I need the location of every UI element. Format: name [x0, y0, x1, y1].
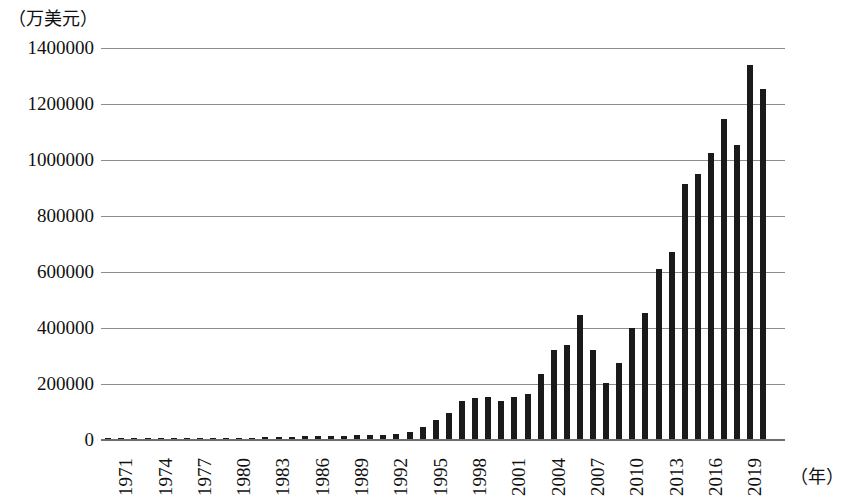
y-axis-unit-label: （万美元） [8, 4, 98, 30]
y-tick-label: 0 [0, 430, 94, 449]
x-tick-label: 2007 [588, 458, 607, 496]
x-tick-label: 1980 [234, 458, 253, 496]
x-axis-baseline [101, 439, 785, 441]
bar [656, 269, 662, 440]
x-tick-label: 1977 [195, 458, 214, 496]
y-tick-label: 800000 [0, 206, 94, 225]
y-tick-label: 400000 [0, 318, 94, 337]
bar [459, 401, 465, 440]
bar [538, 374, 544, 440]
y-tick-label: 200000 [0, 374, 94, 393]
bar [551, 350, 557, 440]
y-tick-label: 600000 [0, 262, 94, 281]
bar [472, 398, 478, 440]
y-tick-label: 1000000 [0, 150, 94, 169]
bar-chart-figure: （万美元） 0200000400000600000800000100000012… [0, 0, 846, 501]
bar [708, 153, 714, 440]
bar [721, 119, 727, 440]
bar [485, 397, 491, 440]
bar [564, 345, 570, 440]
bar [446, 413, 452, 440]
x-axis-unit-label: （年） [790, 462, 844, 488]
bar [511, 397, 517, 440]
y-tick-label: 1400000 [0, 38, 94, 57]
x-tick-label: 1986 [313, 458, 332, 496]
bar [603, 383, 609, 440]
x-tick-label: 1989 [352, 458, 371, 496]
x-tick-label: 2013 [667, 458, 686, 496]
bar [590, 350, 596, 440]
bar [525, 394, 531, 440]
bar [682, 184, 688, 440]
plot-area [101, 48, 785, 440]
x-tick-label: 1971 [116, 458, 135, 496]
x-tick-label: 2016 [706, 458, 725, 496]
bar [747, 65, 753, 440]
y-tick-label: 1200000 [0, 94, 94, 113]
x-tick-label: 2001 [509, 458, 528, 496]
bar [433, 420, 439, 440]
x-axis-tick-labels: 1971197419771980198319861989199219951998… [101, 444, 785, 501]
bars-layer [101, 48, 785, 440]
x-tick-label: 2004 [549, 458, 568, 496]
x-tick-label: 1983 [273, 458, 292, 496]
bar [734, 145, 740, 440]
x-tick-label: 1974 [156, 458, 175, 496]
bar [695, 174, 701, 440]
bar [616, 363, 622, 440]
bar [577, 315, 583, 440]
x-tick-label: 1995 [431, 458, 450, 496]
bar [669, 252, 675, 440]
bar [498, 401, 504, 440]
bar [760, 89, 766, 440]
x-tick-label: 1992 [391, 458, 410, 496]
bar [642, 313, 648, 440]
x-tick-label: 2010 [627, 458, 646, 496]
x-tick-label: 2019 [745, 458, 764, 496]
bar [629, 328, 635, 440]
x-tick-label: 1998 [470, 458, 489, 496]
